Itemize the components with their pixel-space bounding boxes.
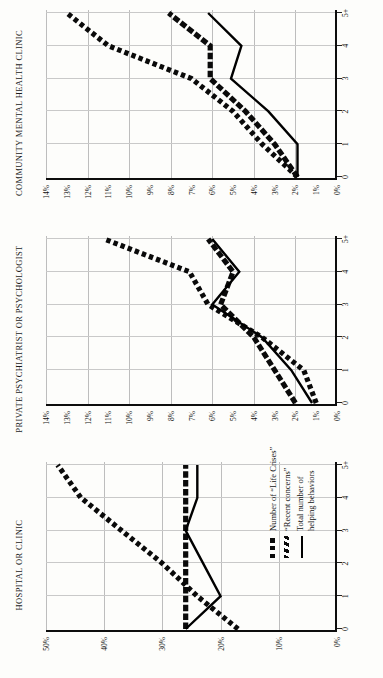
y-axis-tick-label: 6% xyxy=(208,411,217,421)
chart-legend: Number of “Life Crises”“Recent concerns”… xyxy=(268,447,319,558)
x-axis-tick-mark xyxy=(337,78,342,79)
x-axis-tick-label: 0 xyxy=(341,401,350,405)
x-axis-tick-mark xyxy=(337,271,342,272)
panel-title: HOSPITAL OR CLINIC xyxy=(14,452,25,678)
y-axis-tick-label: 2% xyxy=(291,185,300,195)
legend-swatch-dotted-square-thick xyxy=(270,536,275,558)
y-axis-tick-label: 3% xyxy=(270,411,279,421)
y-axis-tick-label: 1% xyxy=(312,185,321,195)
y-axis-tick-label: 13% xyxy=(62,411,71,425)
y-axis-tick-label: 11% xyxy=(104,411,113,424)
x-axis-tick-label: 2 xyxy=(341,335,350,339)
y-axis-tick-label: 5% xyxy=(229,185,238,195)
data-series-solid xyxy=(186,465,221,629)
x-axis-tick-mark xyxy=(337,238,342,239)
legend-item: Number of “Life Crises” xyxy=(268,447,279,558)
y-axis-tick-label: 9% xyxy=(145,411,154,421)
y-axis-tick-label: 30% xyxy=(158,637,167,651)
y-axis-tick-label: 14% xyxy=(42,185,51,199)
y-axis-tick-label: 4% xyxy=(249,411,258,421)
x-axis-tick-mark xyxy=(337,304,342,305)
legend-label: “Recent concerns” xyxy=(282,468,293,531)
data-series-hatched xyxy=(208,239,295,403)
x-axis-tick-mark xyxy=(337,110,342,111)
legend-item: Total number of helping behaviors xyxy=(295,447,316,558)
legend-item: “Recent concerns” xyxy=(282,447,293,558)
panel-title: COMMUNITY MENTAL HEALTH CLINIC xyxy=(14,0,25,226)
legend-swatch-solid-thin xyxy=(301,536,303,558)
x-axis-tick-mark xyxy=(337,143,342,144)
x-axis-tick-label: 3 xyxy=(341,77,350,81)
data-series-solid xyxy=(208,13,297,177)
x-axis-tick-label: 2 xyxy=(341,561,350,565)
series-layer xyxy=(46,236,337,406)
legend-swatch-hatched-diagonal-thick xyxy=(284,536,289,558)
x-axis-tick-mark xyxy=(337,369,342,370)
y-axis-tick-label: 12% xyxy=(83,185,92,199)
chart-panel-community-mental-health-clinic: COMMUNITY MENTAL HEALTH CLINIC 0%1%2%3%4… xyxy=(0,0,383,226)
y-axis-tick-label: 40% xyxy=(100,637,109,651)
legend-label: Number of “Life Crises” xyxy=(268,447,279,531)
x-axis-tick-label: 1 xyxy=(341,368,350,372)
x-axis-tick-label: 4 xyxy=(341,496,350,500)
y-axis-tick-label: 6% xyxy=(208,185,217,195)
x-axis-tick-mark xyxy=(337,628,342,629)
y-axis-tick-label: 0% xyxy=(333,411,342,421)
x-axis-tick-mark xyxy=(337,176,342,177)
y-axis-tick-label: 5% xyxy=(229,411,238,421)
y-axis-tick-label: 10% xyxy=(274,637,283,651)
x-axis-tick-label: 5+ xyxy=(341,9,350,18)
legend-label: Total number of helping behaviors xyxy=(295,470,316,531)
x-axis-tick-label: 5+ xyxy=(341,461,350,470)
y-axis-tick-label: 13% xyxy=(62,185,71,199)
x-axis-tick-label: 3 xyxy=(341,303,350,307)
y-axis-tick-label: 7% xyxy=(187,185,196,195)
chart-panel-private-psychiatrist: PRIVATE PSYCHIATRIST OR PSYCHOLOGIST 0%1… xyxy=(0,226,383,452)
series-layer xyxy=(46,10,337,180)
x-axis-tick-label: 0 xyxy=(341,627,350,631)
chart-panel-hospital-or-clinic: HOSPITAL OR CLINIC 0%10%20%30%40%50%0123… xyxy=(0,452,383,678)
plot-area: 0%1%2%3%4%5%6%7%8%9%10%11%12%13%14%01234… xyxy=(46,10,337,180)
x-axis-tick-mark xyxy=(337,402,342,403)
plot-area: 0%1%2%3%4%5%6%7%8%9%10%11%12%13%14%01234… xyxy=(46,236,337,406)
data-series-dotted xyxy=(67,13,298,177)
y-axis-tick-label: 8% xyxy=(166,411,175,421)
y-axis-tick-label: 12% xyxy=(83,411,92,425)
x-axis-tick-label: 4 xyxy=(341,44,350,48)
rotated-page-wrapper: HOSPITAL OR CLINIC 0%10%20%30%40%50%0123… xyxy=(0,0,383,678)
x-axis-tick-mark xyxy=(337,45,342,46)
x-axis-tick-mark xyxy=(337,12,342,13)
x-axis-tick-label: 5+ xyxy=(341,235,350,244)
y-axis-tick-label: 8% xyxy=(166,185,175,195)
x-axis-tick-label: 0 xyxy=(341,175,350,179)
x-axis-tick-mark xyxy=(337,464,342,465)
y-axis-tick-label: 1% xyxy=(312,411,321,421)
x-axis-tick-mark xyxy=(337,336,342,337)
y-axis-tick-label: 4% xyxy=(249,185,258,195)
y-axis-tick-label: 20% xyxy=(216,637,225,651)
x-axis-tick-label: 1 xyxy=(341,594,350,598)
x-axis-tick-mark xyxy=(337,530,342,531)
y-axis-tick-label: 0% xyxy=(333,185,342,195)
y-axis-tick-label: 10% xyxy=(125,411,134,425)
y-axis-tick-label: 11% xyxy=(104,185,113,198)
y-axis-tick-label: 7% xyxy=(187,411,196,421)
x-axis-tick-label: 1 xyxy=(341,142,350,146)
x-axis-tick-mark xyxy=(337,497,342,498)
x-axis-tick-label: 4 xyxy=(341,270,350,274)
figure-sheet: HOSPITAL OR CLINIC 0%10%20%30%40%50%0123… xyxy=(0,0,383,678)
y-axis-tick-label: 2% xyxy=(291,411,300,421)
y-axis-tick-label: 10% xyxy=(125,185,134,199)
y-axis-tick-label: 50% xyxy=(42,637,51,651)
x-axis-tick-mark xyxy=(337,562,342,563)
y-axis-tick-label: 14% xyxy=(42,411,51,425)
y-axis-tick-label: 9% xyxy=(145,185,154,195)
x-axis-tick-mark xyxy=(337,595,342,596)
panel-title: PRIVATE PSYCHIATRIST OR PSYCHOLOGIST xyxy=(14,226,25,452)
x-axis-tick-label: 3 xyxy=(341,529,350,533)
data-series-dotted xyxy=(104,239,316,403)
y-axis-tick-label: 3% xyxy=(270,185,279,195)
y-axis-tick-label: 0% xyxy=(333,637,342,647)
x-axis-tick-label: 2 xyxy=(341,109,350,113)
